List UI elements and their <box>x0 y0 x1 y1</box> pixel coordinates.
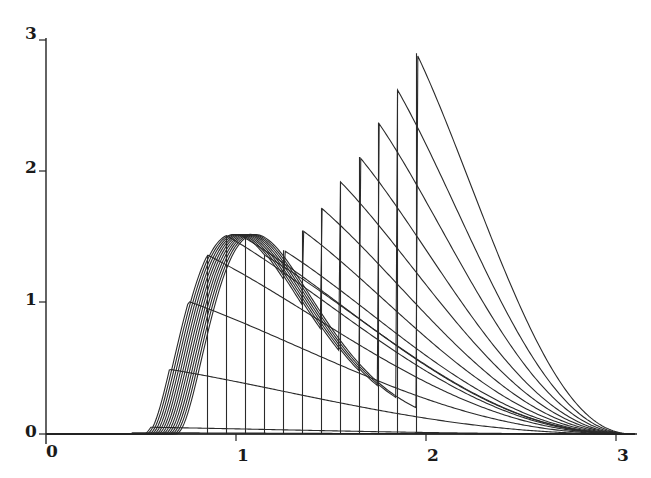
y-tick-label-2: 2 <box>25 157 37 177</box>
x-tick-label-0: 0 <box>46 441 58 461</box>
y-tick-label-0: 0 <box>25 421 37 441</box>
y-tick-label-3: 3 <box>25 23 37 43</box>
x-tick-label-1: 1 <box>237 445 249 465</box>
x-tick-label-3: 3 <box>617 445 629 465</box>
density-curves-chart: 3 2 1 0 0 1 2 3 <box>0 0 651 478</box>
x-tick-label-2: 2 <box>427 445 439 465</box>
y-tick-label-1: 1 <box>25 289 37 309</box>
